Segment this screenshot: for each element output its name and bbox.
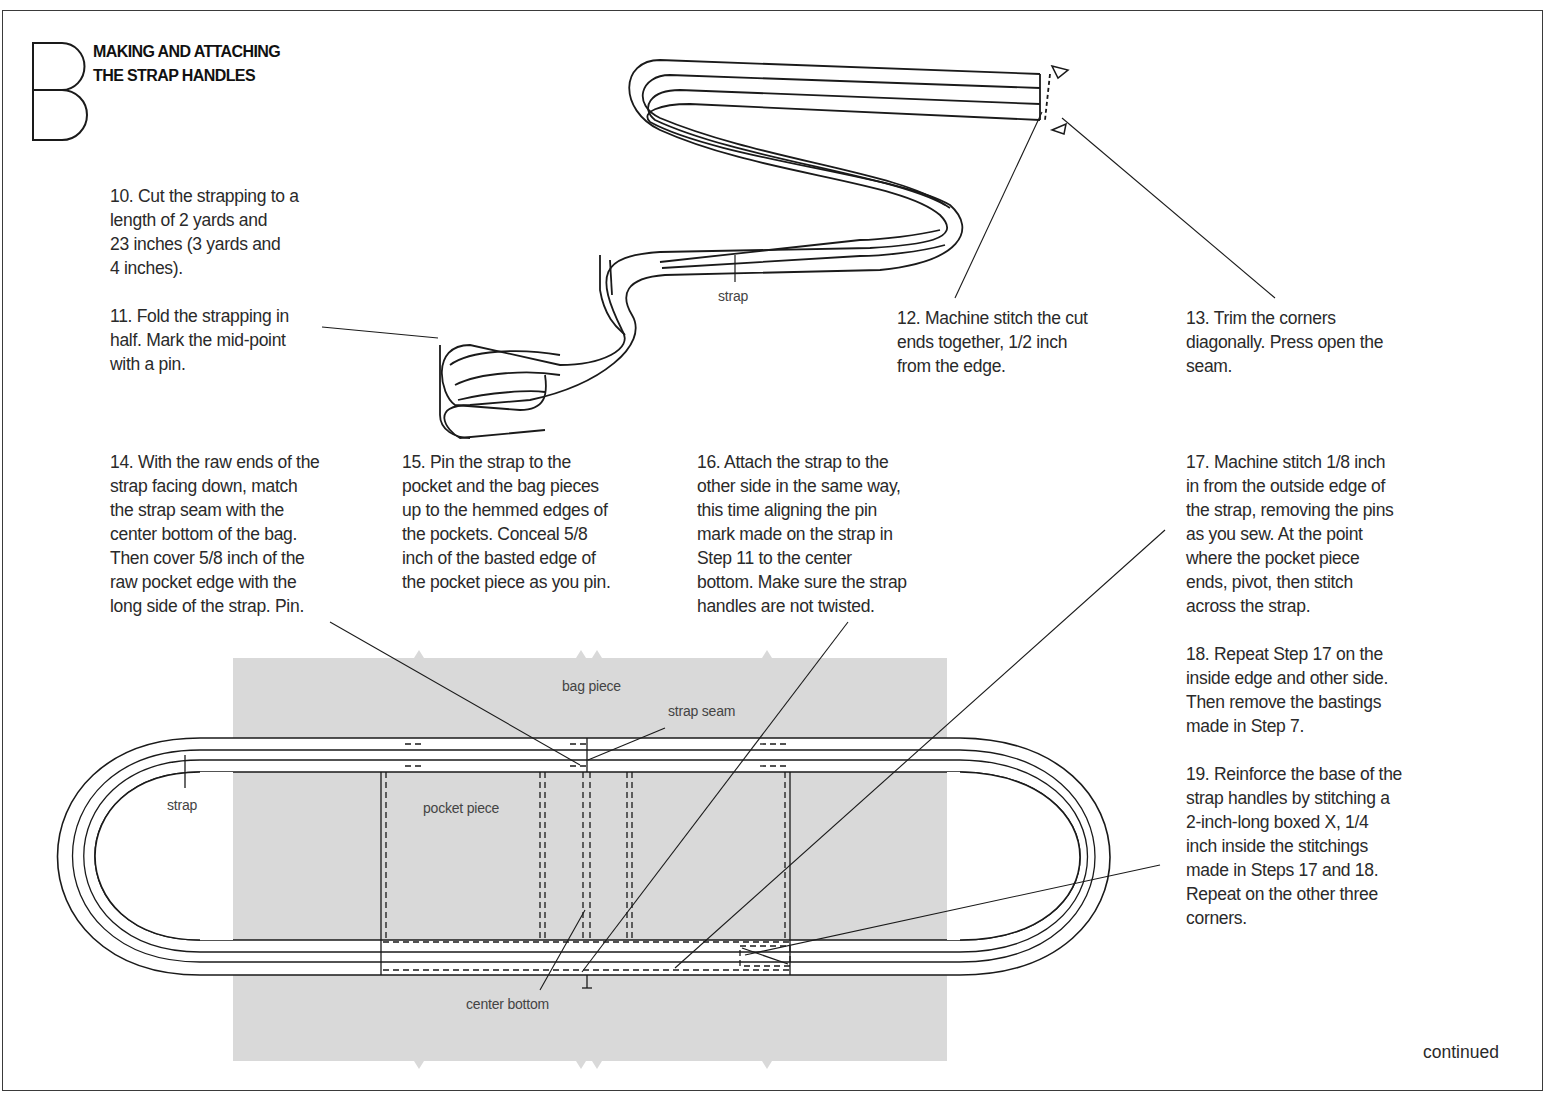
leader-lines-top — [322, 112, 1275, 338]
step-10: 10. Cut the strapping to a length of 2 y… — [110, 184, 299, 280]
step-17: 17. Machine stitch 1/8 inch in from the … — [1186, 450, 1394, 618]
step-15: 15. Pin the strap to the pocket and the … — [402, 450, 611, 594]
step-18: 18. Repeat Step 17 on the inside edge an… — [1186, 642, 1388, 738]
step-16: 16. Attach the strap to the other side i… — [697, 450, 907, 618]
step-13: 13. Trim the corners diagonally. Press o… — [1186, 306, 1383, 378]
step-19: 19. Reinforce the base of the strap hand… — [1186, 762, 1402, 930]
step-12: 12. Machine stitch the cut ends together… — [897, 306, 1088, 378]
label-strap-bottom: strap — [167, 797, 197, 813]
label-bag-piece: bag piece — [562, 678, 621, 694]
step-11: 11. Fold the strapping in half. Mark the… — [110, 304, 289, 376]
bag-diagram — [58, 650, 1111, 1069]
label-strap-top: strap — [718, 288, 748, 304]
label-center-bottom: center bottom — [466, 996, 549, 1012]
step-14: 14. With the raw ends of the strap facin… — [110, 450, 320, 618]
strap-ribbon-illustration — [440, 60, 1068, 438]
label-strap-seam: strap seam — [668, 703, 735, 719]
continued-label: continued — [1423, 1042, 1499, 1063]
label-pocket-piece: pocket piece — [423, 800, 499, 816]
